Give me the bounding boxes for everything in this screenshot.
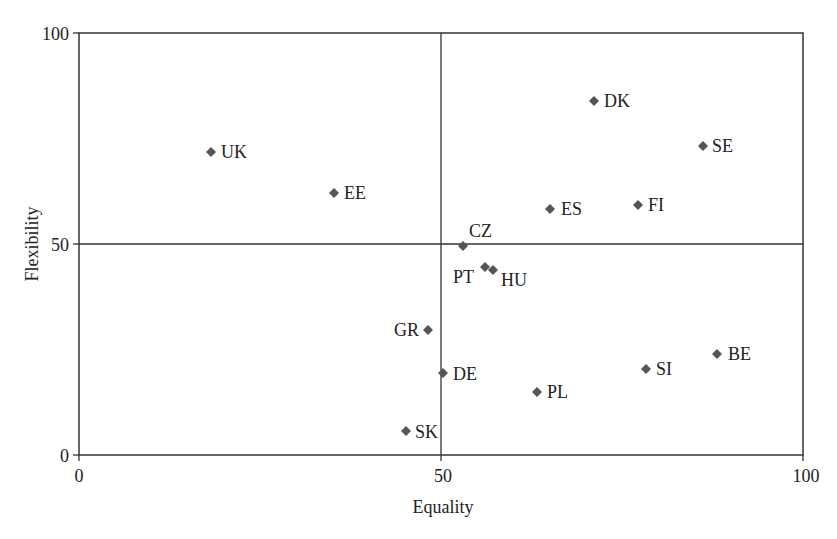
point-label-dk: DK [604, 91, 630, 111]
point-gr-diamond-icon [423, 325, 433, 335]
y-tick-label-100: 100 [42, 24, 69, 44]
point-label-ee: EE [344, 183, 366, 203]
point-dk-diamond-icon [589, 96, 599, 106]
scatter-chart: 100 50 0 0 50 100 Equality Flexibility U… [0, 0, 837, 539]
x-axis-ticks [79, 455, 803, 461]
point-se-diamond-icon [698, 141, 708, 151]
x-tick-label-0: 0 [75, 466, 84, 486]
y-axis-ticks [73, 33, 79, 455]
point-ee-diamond-icon [329, 188, 339, 198]
point-pl-diamond-icon [532, 387, 542, 397]
point-label-gr: GR [394, 320, 419, 340]
point-de-diamond-icon [438, 368, 448, 378]
point-es-diamond-icon [545, 204, 555, 214]
point-uk-diamond-icon [206, 147, 216, 157]
y-axis-title: Flexibility [22, 206, 42, 281]
point-be-diamond-icon [712, 349, 722, 359]
point-label-si: SI [656, 359, 672, 379]
point-label-se: SE [712, 136, 733, 156]
data-points [206, 96, 722, 436]
x-tick-label-50: 50 [434, 466, 452, 486]
point-sk-diamond-icon [401, 426, 411, 436]
y-tick-label-0: 0 [60, 446, 69, 466]
point-label-sk: SK [415, 422, 438, 442]
point-label-pl: PL [547, 382, 568, 402]
point-cz-diamond-icon [458, 241, 468, 251]
point-label-cz: CZ [469, 221, 492, 241]
x-tick-label-100: 100 [793, 466, 820, 486]
point-fi-diamond-icon [633, 200, 643, 210]
y-tick-label-50: 50 [51, 235, 69, 255]
point-si-diamond-icon [641, 364, 651, 374]
point-label-uk: UK [221, 142, 247, 162]
point-label-fi: FI [648, 195, 664, 215]
point-label-pt: PT [453, 267, 474, 287]
x-axis-title: Equality [413, 497, 474, 517]
point-label-de: DE [453, 364, 477, 384]
point-label-hu: HU [501, 270, 527, 290]
point-label-be: BE [728, 344, 751, 364]
point-label-es: ES [561, 199, 582, 219]
